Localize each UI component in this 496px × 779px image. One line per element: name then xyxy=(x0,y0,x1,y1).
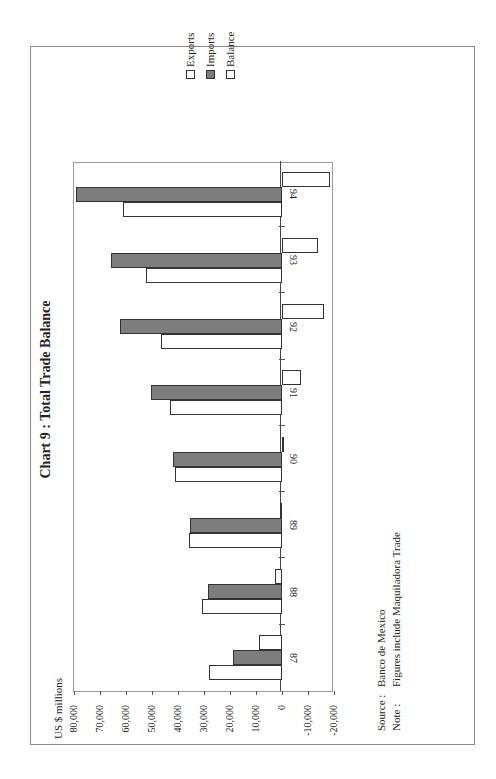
exports-bar xyxy=(209,665,282,680)
note-value: Figures include Maquiladora Trade xyxy=(390,532,402,687)
imports-bar xyxy=(120,319,283,334)
imports-swatch-icon xyxy=(206,70,215,79)
y-axis-tick xyxy=(100,691,101,695)
y-axis-tick xyxy=(282,691,283,695)
source-key: Source : xyxy=(374,687,389,731)
y-axis-tick-label: 20,000 xyxy=(224,705,235,755)
legend-item-imports: Imports xyxy=(200,19,220,79)
y-axis-tick xyxy=(74,691,75,695)
y-axis-tick-label: -10,000 xyxy=(302,705,313,755)
imports-bar xyxy=(151,385,282,400)
imports-bar xyxy=(233,650,282,665)
category-label: 94 xyxy=(288,174,299,214)
y-axis-tick xyxy=(256,691,257,695)
balance-bar xyxy=(259,635,282,650)
source-value: Banco de Mexico xyxy=(375,609,387,687)
balance-swatch-icon xyxy=(226,70,235,79)
category-label: 93 xyxy=(288,240,299,280)
exports-swatch-icon xyxy=(186,70,195,79)
category-tick xyxy=(279,491,285,492)
legend-item-exports: Exports xyxy=(180,19,200,79)
imports-bar xyxy=(190,518,282,533)
imports-bar xyxy=(76,187,282,202)
note-line: Note :Figures include Maquiladora Trade xyxy=(389,532,404,731)
balance-bar xyxy=(282,437,284,452)
category-tick xyxy=(279,359,285,360)
source-line: Source :Banco de Mexico xyxy=(374,532,389,731)
category-tick xyxy=(279,558,285,559)
imports-bar xyxy=(111,253,282,268)
category-label: 87 xyxy=(288,638,299,678)
legend-label: Imports xyxy=(204,33,216,67)
exports-bar xyxy=(202,599,282,614)
balance-bar xyxy=(275,569,282,584)
y-axis-tick xyxy=(334,691,335,695)
y-axis-tick xyxy=(152,691,153,695)
exports-bar xyxy=(175,467,282,482)
category-label: 91 xyxy=(288,373,299,413)
note-key: Note : xyxy=(389,687,404,731)
category-tick xyxy=(279,226,285,227)
y-axis-tick-label: 50,000 xyxy=(146,705,157,755)
y-axis-tick-label: 30,000 xyxy=(198,705,209,755)
imports-bar xyxy=(208,584,282,599)
exports-bar xyxy=(146,268,282,283)
y-axis-tick xyxy=(204,691,205,695)
y-axis-unit-label: US $ millions xyxy=(52,678,64,739)
plot-area: 878889909192939480,00070,00060,00050,000… xyxy=(73,162,333,692)
y-axis-tick-label: 40,000 xyxy=(172,705,183,755)
exports-bar xyxy=(189,533,282,548)
category-label: 88 xyxy=(288,572,299,612)
y-axis-tick-label: -20,000 xyxy=(328,705,339,755)
y-axis-tick xyxy=(178,691,179,695)
category-tick xyxy=(279,425,285,426)
category-tick xyxy=(279,624,285,625)
y-axis-tick-label: 70,000 xyxy=(94,705,105,755)
legend-item-balance: Balance xyxy=(220,19,240,79)
y-axis-tick-label: 0 xyxy=(276,705,287,755)
y-axis-tick-label: 10,000 xyxy=(250,705,261,755)
exports-bar xyxy=(161,334,282,349)
exports-bar xyxy=(123,202,282,217)
rotated-chart-page: Chart 9 : Total Trade Balance US $ milli… xyxy=(0,0,496,779)
imports-bar xyxy=(173,452,282,467)
exports-bar xyxy=(170,400,282,415)
category-tick xyxy=(279,293,285,294)
category-label: 90 xyxy=(288,439,299,479)
legend-label: Exports xyxy=(184,33,196,67)
balance-bar xyxy=(280,503,282,518)
y-axis-tick-label: 80,000 xyxy=(68,705,79,755)
footer-notes: Source :Banco de Mexico Note :Figures in… xyxy=(374,532,404,731)
chart-title: Chart 9 : Total Trade Balance xyxy=(38,0,54,779)
y-axis-tick-label: 60,000 xyxy=(120,705,131,755)
legend: Exports Imports Balance xyxy=(180,19,240,79)
y-axis-tick xyxy=(230,691,231,695)
y-axis-tick xyxy=(126,691,127,695)
y-axis-tick xyxy=(308,691,309,695)
category-label: 92 xyxy=(288,307,299,347)
legend-label: Balance xyxy=(224,32,236,67)
category-label: 89 xyxy=(288,505,299,545)
